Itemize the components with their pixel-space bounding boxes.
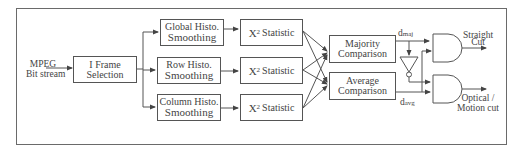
majority-comparison-box: Majority Comparison xyxy=(329,35,396,63)
d-maj-sub: maj xyxy=(403,30,414,38)
input-label-line1: MPEG xyxy=(26,59,60,69)
chi-symbol: X xyxy=(249,103,257,113)
d-maj-label: dmaj xyxy=(398,28,413,39)
iframe-line1: I Frame xyxy=(89,60,120,70)
row-histo-line2: Smoothing xyxy=(165,70,213,81)
flow-diagram: MPEG Bit stream I Frame Selection Global… xyxy=(0,0,525,154)
chi-square-statistic-box-1: X2Statistic xyxy=(240,19,303,46)
row-histo-box: Row Histo. Smoothing xyxy=(157,57,221,84)
chi-superscript: 2 xyxy=(257,102,261,112)
input-label: MPEG Bit stream xyxy=(26,59,60,79)
average-comparison-box: Average Comparison xyxy=(329,72,396,100)
column-histo-box: Column Histo. Smoothing xyxy=(157,94,221,121)
chi-square-statistic-box-2: X2Statistic xyxy=(240,57,303,84)
iframe-line2: Selection xyxy=(86,70,123,80)
majority-line2: Comparison xyxy=(338,49,387,59)
d-avg-sub: avg xyxy=(405,99,415,107)
optical-cut-line2: Motion cut xyxy=(453,103,503,113)
optical-motion-cut-label: Optical / Motion cut xyxy=(453,93,503,113)
iframe-selection-box: I Frame Selection xyxy=(73,56,137,83)
average-line2: Comparison xyxy=(338,86,387,96)
global-histo-box: Global Histo. Smoothing xyxy=(160,19,224,46)
chi-superscript: 2 xyxy=(257,65,261,75)
global-histo-line2: Smoothing xyxy=(168,32,216,43)
statistic-label: Statistic xyxy=(262,103,294,113)
optical-cut-line1: Optical / xyxy=(453,93,503,103)
straight-cut-label: Straight Cut xyxy=(458,30,498,47)
chi-symbol: X xyxy=(249,66,257,76)
chi-superscript: 2 xyxy=(257,27,261,37)
d-avg-label: davg xyxy=(400,97,415,108)
input-label-line2: Bit stream xyxy=(26,69,60,79)
chi-square-statistic-box-3: X2Statistic xyxy=(240,94,303,121)
statistic-label: Statistic xyxy=(262,28,294,38)
statistic-label: Statistic xyxy=(262,66,294,76)
chi-symbol: X xyxy=(249,28,257,38)
column-histo-line2: Smoothing xyxy=(165,107,213,118)
